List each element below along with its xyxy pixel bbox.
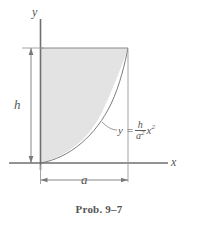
equation-leader-line xyxy=(102,122,117,130)
figure-caption: Prob. 9–7 xyxy=(0,203,198,215)
y-axis-label: y xyxy=(32,6,37,18)
width-dimension-label: a xyxy=(81,173,88,186)
dimension-arrow-a-right xyxy=(121,178,128,183)
equation-variable-exponent: 2 xyxy=(152,123,156,131)
height-dimension-label: h xyxy=(14,98,21,111)
figure-drawing xyxy=(0,0,198,229)
curve-equation-label: y = h a2 x2 xyxy=(118,120,155,141)
equation-fraction: h a2 xyxy=(135,120,146,141)
dimension-arrow-h-bottom xyxy=(29,156,34,163)
equation-lhs: y xyxy=(118,125,123,136)
shaded-region xyxy=(41,48,129,163)
figure-container: y x h a y = h a2 x2 Prob. 9–7 xyxy=(0,0,198,229)
equation-denominator-exponent: 2 xyxy=(141,129,145,137)
equation-equals-sign: = xyxy=(127,125,133,136)
x-axis-label: x xyxy=(171,156,176,168)
equation-denominator: a2 xyxy=(135,131,146,141)
equation-variable-term: x2 xyxy=(147,125,155,136)
dimension-arrow-h-top xyxy=(29,48,34,55)
dimension-arrow-a-left xyxy=(41,178,48,183)
